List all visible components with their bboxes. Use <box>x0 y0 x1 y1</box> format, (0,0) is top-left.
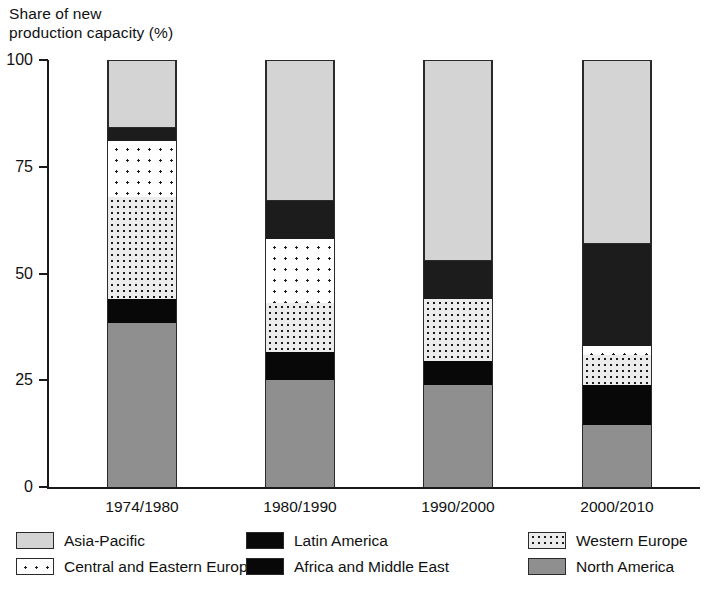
y-axis-tick-label: 100 <box>0 52 33 68</box>
y-axis-tick-mark <box>39 59 48 61</box>
bar-segment <box>266 239 334 303</box>
x-axis-tick-label: 1974/1980 <box>72 499 212 515</box>
bar-segment <box>108 197 176 299</box>
legend-item[interactable]: North America <box>528 555 674 577</box>
bar-segment <box>583 60 651 244</box>
bar-segment <box>266 352 334 380</box>
bar-segment <box>266 60 334 201</box>
bar-segment <box>108 60 176 128</box>
bar-segment <box>424 299 492 361</box>
legend-swatch <box>16 558 54 575</box>
legend-label: Latin America <box>294 532 388 549</box>
legend-label: Asia-Pacific <box>64 532 145 549</box>
x-axis-tick-label: 1980/1990 <box>230 499 370 515</box>
legend-item[interactable]: Asia-Pacific <box>16 529 145 551</box>
y-axis-tick-label: 0 <box>0 479 33 495</box>
legend-label: Western Europe <box>576 532 688 549</box>
chart-legend: Asia-PacificCentral and Eastern EuropeLa… <box>8 529 702 583</box>
bar-segment <box>583 346 651 355</box>
y-axis-line <box>47 60 49 489</box>
bar-segment <box>108 128 176 141</box>
y-axis-tick-mark <box>39 486 48 488</box>
stacked-bar <box>107 60 177 487</box>
bar-segment <box>424 361 492 384</box>
bar-segment <box>266 201 334 239</box>
legend-label: Africa and Middle East <box>294 558 449 575</box>
y-axis-tick-mark <box>39 166 48 168</box>
bar-segment <box>424 60 492 261</box>
bar-segment <box>424 385 492 487</box>
bar-segment <box>266 303 334 352</box>
bar-segment <box>108 141 176 197</box>
y-axis-tick-label: 50 <box>0 266 33 282</box>
stacked-bar <box>423 60 493 487</box>
legend-swatch <box>246 558 284 575</box>
y-axis-tick-mark <box>39 379 48 381</box>
x-axis-line <box>47 487 700 489</box>
bar-segment <box>108 299 176 322</box>
legend-swatch <box>16 532 54 549</box>
legend-swatch <box>528 532 566 549</box>
x-axis-tick-label: 1990/2000 <box>388 499 528 515</box>
chart-plot-area: 02550751001974/19801980/19901990/2000200… <box>0 0 709 591</box>
bar-segment <box>583 355 651 385</box>
bar-segment <box>583 425 651 487</box>
stacked-bar <box>582 60 652 487</box>
legend-swatch <box>246 532 284 549</box>
bar-segment <box>583 385 651 426</box>
bar-segment <box>108 323 176 487</box>
legend-item[interactable]: Western Europe <box>528 529 688 551</box>
bar-segment <box>266 380 334 487</box>
y-axis-tick-label: 75 <box>0 159 33 175</box>
legend-item[interactable]: Africa and Middle East <box>246 555 449 577</box>
bar-segment <box>424 261 492 299</box>
legend-label: Central and Eastern Europe <box>64 558 256 575</box>
y-axis-tick-label: 25 <box>0 372 33 388</box>
legend-label: North America <box>576 558 674 575</box>
legend-item[interactable]: Latin America <box>246 529 388 551</box>
stacked-bar <box>265 60 335 487</box>
bar-segment <box>583 244 651 346</box>
legend-item[interactable]: Central and Eastern Europe <box>16 555 256 577</box>
x-axis-tick-label: 2000/2010 <box>547 499 687 515</box>
y-axis-tick-mark <box>39 273 48 275</box>
legend-swatch <box>528 558 566 575</box>
